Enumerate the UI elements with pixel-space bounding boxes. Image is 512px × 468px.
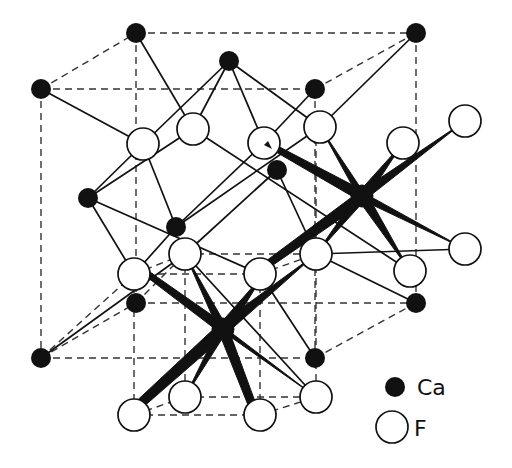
f-atom xyxy=(118,258,150,290)
legend: Ca F xyxy=(376,375,446,443)
ca-atom xyxy=(305,79,325,99)
legend-ca-symbol xyxy=(385,377,405,397)
ca-atom xyxy=(166,217,186,237)
legend-f-label: F xyxy=(414,416,427,441)
legend-f-symbol xyxy=(376,411,408,443)
ca-atom xyxy=(78,188,98,208)
ca-atom xyxy=(31,79,51,99)
f-atom xyxy=(127,128,159,160)
f-atom xyxy=(304,111,336,143)
ca-atom xyxy=(406,293,426,313)
f-atom xyxy=(118,399,150,431)
ca-atom xyxy=(126,23,146,43)
f-atom xyxy=(244,258,276,290)
unit-cell-dashed-edges xyxy=(41,33,416,415)
f-atom xyxy=(177,113,209,145)
ca-atom xyxy=(31,348,51,368)
f-atom xyxy=(449,105,481,137)
f-atom xyxy=(449,233,481,265)
ca-atom xyxy=(219,51,239,71)
ca-atom xyxy=(126,293,146,313)
fluorite-crystal-diagram: Ca F xyxy=(0,0,512,468)
f-atom xyxy=(387,127,419,159)
ca-atom xyxy=(267,160,287,180)
f-atom xyxy=(244,399,276,431)
legend-ca-label: Ca xyxy=(417,375,446,400)
f-atom xyxy=(300,381,332,413)
f-atom xyxy=(300,238,332,270)
f-atom xyxy=(394,255,426,287)
f-atom xyxy=(169,238,201,270)
f-atom xyxy=(248,127,280,159)
ca-atom xyxy=(406,23,426,43)
f-atom xyxy=(169,381,201,413)
ca-atom xyxy=(305,348,325,368)
